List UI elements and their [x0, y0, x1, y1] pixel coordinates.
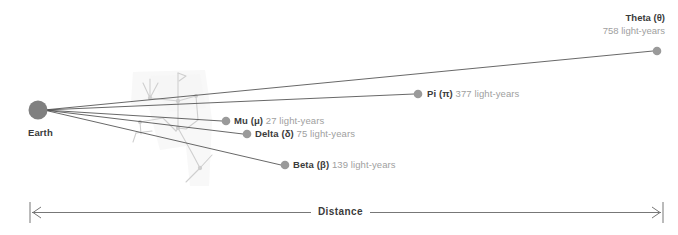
distance-axis — [0, 0, 678, 235]
axis-title-distance: Distance — [311, 206, 370, 217]
star-distance-diagram: Earth Mu (μ) 27 light-years Delta (δ) 75… — [0, 0, 678, 235]
